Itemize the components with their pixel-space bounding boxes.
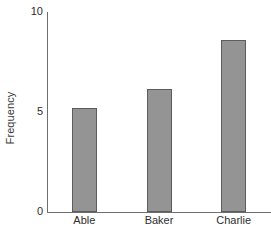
plot-area (47, 12, 271, 212)
x-tick-label-baker: Baker (145, 215, 174, 226)
bar-chart: Frequency 10 5 0 Able Baker Charlie (0, 0, 271, 235)
bar-able (72, 108, 97, 212)
bar-charlie (221, 40, 246, 212)
y-tick-label-0: 0 (7, 206, 43, 217)
y-tick-label-5: 5 (7, 106, 43, 117)
x-tick-label-charlie: Charlie (216, 215, 251, 226)
bar-baker (147, 89, 172, 212)
x-tick-label-able: Able (73, 215, 95, 226)
x-axis-line (47, 212, 271, 213)
y-axis-tick-labels: 10 5 0 (0, 0, 43, 235)
y-tick-label-10: 10 (7, 6, 43, 17)
y-axis-line (47, 12, 48, 212)
